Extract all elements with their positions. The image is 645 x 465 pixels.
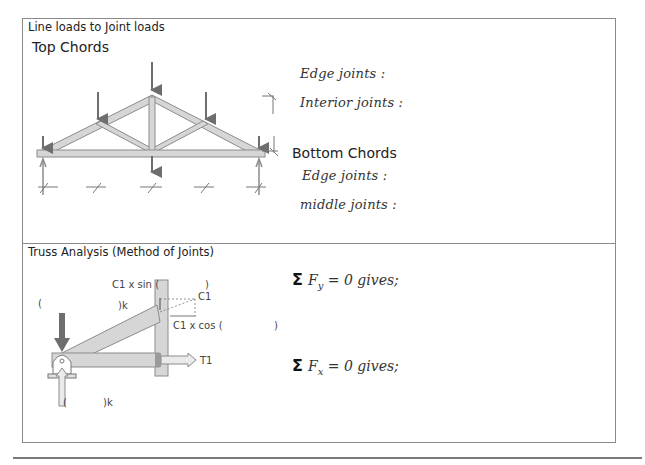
sigma-symbol: Σ [292, 356, 303, 375]
c1-label: C1 [198, 291, 211, 302]
reaction-open-paren: ( [63, 397, 67, 408]
sigma-symbol: Σ [292, 270, 303, 289]
bottom-middle-joints-label: middle joints : [300, 197, 397, 212]
t1-label: T1 [200, 355, 212, 366]
load-open-paren: ( [38, 298, 42, 309]
equation-sum-fy: ΣFy = 0 gives; [292, 270, 399, 291]
force-var: F [308, 272, 318, 288]
equation-rest: = 0 gives; [323, 272, 399, 288]
reaction-k-label: )k [103, 397, 113, 408]
load-k-label: )k [118, 300, 128, 311]
c1-cos-label: C1 x cos ( [173, 320, 223, 331]
c1-sin-label: C1 x sin ( [112, 279, 159, 290]
equation-rest: = 0 gives; [323, 358, 399, 374]
footer-rule [13, 457, 642, 459]
bottom-chords-heading: Bottom Chords [292, 145, 397, 161]
top-interior-joints-label: Interior joints : [300, 95, 403, 110]
c1-cos-close-paren: ) [274, 320, 278, 331]
top-edge-joints-label: Edge joints : [300, 66, 385, 81]
bottom-edge-joints-label: Edge joints : [302, 168, 387, 183]
c1-sin-close-paren: ) [205, 279, 209, 290]
equation-sum-fx: ΣFx = 0 gives; [292, 356, 399, 377]
force-var: F [308, 358, 318, 374]
